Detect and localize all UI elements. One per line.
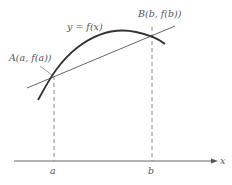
curve-label: y = f(x) (66, 21, 103, 32)
point-b-label: B(b, f(b)) (137, 8, 182, 19)
point-a-label: A(a, f(a)) (8, 52, 52, 63)
x-axis-arrow-icon (211, 159, 218, 164)
tick-a-label: a (50, 165, 56, 176)
diagram-canvas: y = f(x) B(b, f(b)) A(a, f(a)) a b x (0, 0, 232, 185)
diagram-svg: y = f(x) B(b, f(b)) A(a, f(a)) a b x (0, 0, 232, 185)
x-axis-label: x (220, 155, 226, 166)
tick-b-label: b (148, 165, 154, 176)
label-a-leader (40, 66, 52, 75)
curve-f (38, 31, 165, 100)
